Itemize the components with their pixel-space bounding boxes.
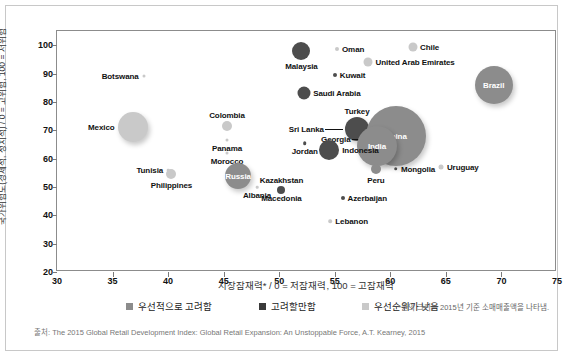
bubble-label-sri-lanka: Sri Lanka (289, 124, 324, 133)
bubble-indonesia[interactable] (319, 140, 339, 160)
bubble-saudi-arabia[interactable] (297, 87, 310, 100)
bubble-panama[interactable] (226, 139, 229, 142)
bubble-label-peru: Peru (367, 175, 384, 184)
bubble-label-mongolia: Mongolia (401, 164, 435, 173)
bubble-label-malaysia: Malaysia (285, 61, 318, 70)
bubble-label-azerbaijan: Azerbaijan (348, 194, 387, 203)
bubble-label-jordan: Jordan (292, 146, 318, 155)
bubble-united-arab-emirates[interactable] (364, 58, 373, 67)
bubble-label-saudi-arabia: Saudi Arabia (313, 89, 360, 98)
bubble-mexico[interactable] (118, 112, 148, 142)
chart-frame: 203040506070809010030354045505560657075M… (5, 5, 558, 351)
bubble-kuwait[interactable] (333, 73, 337, 77)
bubble-label-mexico: Mexico (88, 123, 115, 132)
legend-item-consider[interactable]: 고려할만함 (259, 299, 316, 313)
y-axis-tick-label: 50 (35, 182, 53, 192)
bubble-uruguay[interactable] (439, 165, 444, 170)
bubble-label-oman: Oman (342, 45, 364, 54)
bubble-label-chile: Chile (420, 42, 439, 51)
y-axis-tick-mark (53, 215, 57, 216)
legend-label-priority: 우선적으로 고려함 (138, 299, 213, 313)
bubble-label-united-arab-emirates: United Arab Emirates (376, 58, 455, 67)
y-axis-tick-mark (53, 159, 57, 160)
bubble-label-kuwait: Kuwait (340, 70, 366, 79)
chart-source: 출처: The 2015 Global Retail Development I… (34, 326, 425, 337)
x-axis-tick-mark (446, 272, 447, 277)
x-axis-tick-mark (501, 272, 502, 277)
bubble-label-philippines: Philippines (151, 181, 193, 190)
legend-label-consider: 고려할만함 (271, 299, 316, 313)
x-axis-tick-mark (113, 272, 114, 277)
bubble-botswana[interactable] (142, 75, 145, 78)
bubble-mongolia[interactable] (394, 167, 398, 171)
bubble-azerbaijan[interactable] (341, 196, 345, 200)
y-axis-tick-label: 30 (35, 239, 53, 249)
x-axis-tick-mark (335, 272, 336, 277)
y-axis-tick-label: 90 (35, 69, 53, 79)
bubble-label-lebanon: Lebanon (335, 216, 368, 225)
bubble-malaysia[interactable] (292, 42, 310, 60)
y-axis-tick-label: 40 (35, 210, 53, 220)
bubble-label-brazil: Brazil (483, 80, 504, 89)
bubble-label-colombia: Colombia (209, 110, 245, 119)
y-axis-tick-label: 70 (35, 125, 53, 135)
y-axis-tick-mark (53, 130, 57, 131)
x-axis-tick-mark (390, 272, 391, 277)
x-axis-tick-mark (224, 272, 225, 277)
legend-swatch-priority (126, 303, 133, 310)
bubble-label-russia: Russia (225, 171, 251, 180)
bubble-chile[interactable] (408, 42, 417, 51)
y-axis-tick-mark (53, 244, 57, 245)
bubble-label-botswana: Botswana (102, 72, 139, 81)
bubble-philippines[interactable] (166, 169, 176, 179)
bubble-label-turkey: Turkey (344, 106, 369, 115)
y-axis-tick-mark (53, 187, 57, 188)
chart-note: *원의 크기는 2015년 기준 소매매출액을 나타냄. (398, 301, 549, 312)
x-axis-label: 시장잠재력* / 0 = 저잠재력, 100 = 고잠재력 (56, 278, 556, 292)
y-axis-label: 국가위험도(경제적, 정치적) / 0 = 고위험, 100 = 저위험 (0, 6, 7, 247)
bubble-label-uruguay: Uruguay (447, 163, 479, 172)
bubble-oman[interactable] (335, 47, 339, 51)
legend-swatch-consider (259, 303, 266, 310)
bubble-peru[interactable] (371, 164, 381, 174)
x-axis-tick-mark (168, 272, 169, 277)
bubble-morocco[interactable] (226, 151, 229, 154)
bubble-colombia[interactable] (222, 121, 232, 131)
plot-area: 203040506070809010030354045505560657075M… (56, 30, 556, 271)
y-axis-tick-label: 100 (35, 40, 53, 50)
bubble-label-tunisia: Tunisia (136, 165, 163, 174)
bubble-lebanon[interactable] (329, 219, 333, 223)
leader-line-sri-lanka (325, 129, 343, 130)
bubble-label-indonesia: Indonesia (342, 146, 378, 155)
y-axis-tick-mark (53, 272, 57, 273)
y-axis-tick-mark (53, 74, 57, 75)
y-axis-tick-label: 60 (35, 154, 53, 164)
x-axis-tick-mark (279, 272, 280, 277)
bubble-label-kazakhstan: Kazakhstan (260, 175, 303, 184)
y-axis-tick-label: 80 (35, 97, 53, 107)
bubble-label-macedonia: Macedonia (261, 193, 301, 202)
legend-item-priority[interactable]: 우선적으로 고려함 (126, 299, 213, 313)
bubble-jordan[interactable] (303, 141, 307, 145)
y-axis-tick-mark (53, 45, 57, 46)
bubble-albania[interactable] (256, 186, 259, 189)
y-axis-tick-mark (53, 102, 57, 103)
legend-swatch-low_priority (362, 303, 369, 310)
